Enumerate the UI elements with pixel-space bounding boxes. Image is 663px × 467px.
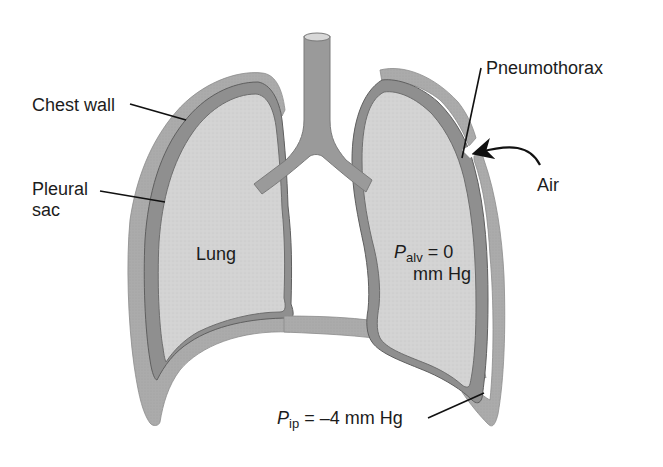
label-lung: Lung — [196, 244, 236, 265]
p-ip-symbol: P — [277, 408, 289, 428]
label-pleural-sac-line2: sac — [32, 200, 60, 221]
label-p-alv-unit: mm Hg — [413, 264, 471, 285]
air-arrow — [480, 147, 540, 165]
label-chest-wall: Chest wall — [32, 95, 115, 116]
trachea-opening — [304, 33, 330, 41]
label-pleural-sac-line1: Pleural — [32, 179, 88, 200]
label-pneumothorax: Pneumothorax — [486, 58, 603, 79]
p-ip-subscript: ip — [289, 416, 299, 431]
label-air: Air — [537, 175, 559, 196]
label-p-ip: Pip = –4 mm Hg — [277, 408, 403, 434]
p-ip-value: = –4 mm Hg — [299, 408, 403, 428]
p-alv-subscript: alv — [406, 250, 423, 265]
p-alv-value: = 0 — [423, 242, 454, 262]
p-alv-symbol: P — [394, 242, 406, 262]
